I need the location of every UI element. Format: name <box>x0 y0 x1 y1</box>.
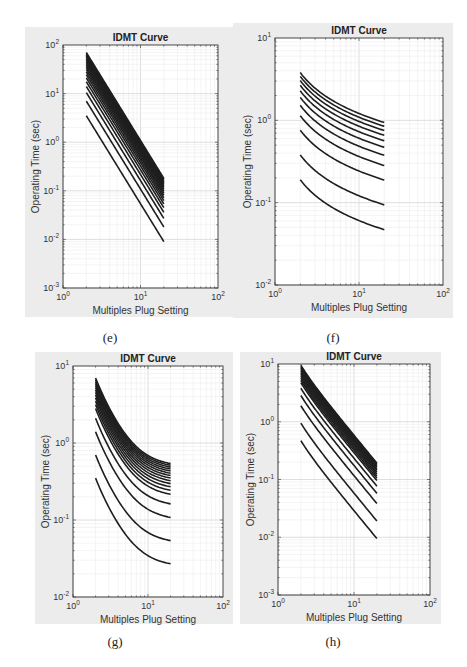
y-tick-label: 100 <box>55 436 69 448</box>
y-tick-label: 10-1 <box>43 184 59 196</box>
y-tick-label: 10-2 <box>258 530 274 542</box>
chart-title: IDMT Curve <box>331 25 387 36</box>
x-tick-label: 101 <box>347 597 361 609</box>
x-tick-label: 100 <box>56 290 70 302</box>
caption-e: (e) <box>90 330 130 346</box>
x-tick-label: 101 <box>141 599 155 611</box>
grid-lines <box>278 364 430 595</box>
y-tick-label: 10-2 <box>43 232 59 244</box>
chart-panel-g: 10010110210-210-1100101IDMT CurveMultipl… <box>35 352 233 624</box>
caption-g: (g) <box>95 634 135 650</box>
grid-lines <box>275 38 443 285</box>
y-tick-label: 101 <box>260 357 274 369</box>
chart-f-svg: 10010110210-210-1100101IDMT CurveMultipl… <box>233 23 453 318</box>
y-tick-label: 10-1 <box>258 473 274 485</box>
y-tick-label: 100 <box>260 415 274 427</box>
x-axis-label: Multiples Plug Setting <box>311 302 407 313</box>
y-tick-label: 100 <box>257 113 271 125</box>
x-tick-label: 101 <box>352 287 366 299</box>
x-axis-label: Multiples Plug Setting <box>92 305 188 316</box>
y-axis-label: Operating Time (sec) <box>245 433 256 526</box>
x-tick-label: 102 <box>211 290 225 302</box>
y-tick-label: 100 <box>45 135 59 147</box>
y-tick-label: 101 <box>55 359 69 371</box>
x-tick-label: 100 <box>271 597 285 609</box>
chart-title: IDMT Curve <box>326 351 382 362</box>
chart-panel-f: 10010110210-210-1100101IDMT CurveMultipl… <box>233 23 453 318</box>
y-tick-label: 10-1 <box>255 196 271 208</box>
caption-h: (h) <box>313 634 353 650</box>
chart-title: IDMT Curve <box>120 353 176 364</box>
y-axis-label: Operating Time (sec) <box>40 435 51 528</box>
chart-h-svg: 10010110210-310-210-1100101IDMT CurveMul… <box>240 352 441 624</box>
chart-panel-h: 10010110210-310-210-1100101IDMT CurveMul… <box>240 352 441 624</box>
chart-title: IDMT Curve <box>113 32 169 43</box>
x-axis-label: Multiples Plug Setting <box>306 612 402 623</box>
chart-panel-e: 10010110210-310-210-1100101102IDMT Curve… <box>25 27 233 317</box>
x-tick-label: 101 <box>134 290 148 302</box>
x-tick-label: 100 <box>268 287 282 299</box>
y-axis-label: Operating Time (sec) <box>30 120 41 213</box>
x-axis-label: Multiples Plug Setting <box>100 614 196 625</box>
y-tick-label: 10-1 <box>53 513 69 525</box>
x-tick-label: 100 <box>66 599 80 611</box>
chart-e-svg: 10010110210-310-210-1100101102IDMT Curve… <box>25 27 233 317</box>
y-axis-label: Operating Time (sec) <box>242 115 253 208</box>
y-tick-label: 101 <box>257 31 271 43</box>
chart-g-svg: 10010110210-210-1100101IDMT CurveMultipl… <box>35 352 233 624</box>
x-tick-label: 102 <box>423 597 437 609</box>
caption-f: (f) <box>313 330 353 346</box>
y-tick-label: 101 <box>45 87 59 99</box>
x-tick-label: 102 <box>216 599 230 611</box>
y-tick-label: 102 <box>45 38 59 50</box>
x-tick-label: 102 <box>436 287 450 299</box>
